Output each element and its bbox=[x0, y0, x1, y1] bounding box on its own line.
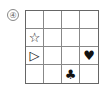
triangle-icon: ▷ bbox=[26, 47, 44, 65]
grid-cell bbox=[80, 65, 98, 83]
grid-cell bbox=[44, 47, 62, 65]
heart-icon: ♥ bbox=[80, 47, 98, 65]
grid-cell bbox=[80, 11, 98, 29]
grid-cell bbox=[80, 29, 98, 47]
grid-cell bbox=[62, 47, 80, 65]
puzzle-number-label: ④ bbox=[7, 9, 19, 21]
grid-cell bbox=[26, 11, 44, 29]
grid-cell bbox=[44, 29, 62, 47]
star-icon: ☆ bbox=[26, 29, 44, 47]
grid-cell bbox=[44, 11, 62, 29]
grid-cell bbox=[26, 65, 44, 83]
grid-cell bbox=[62, 11, 80, 29]
club-icon: ♣ bbox=[62, 65, 80, 83]
grid-cell bbox=[62, 29, 80, 47]
grid-cell bbox=[44, 65, 62, 83]
puzzle-grid: ☆ ▷ ♥ ♣ bbox=[25, 10, 99, 84]
